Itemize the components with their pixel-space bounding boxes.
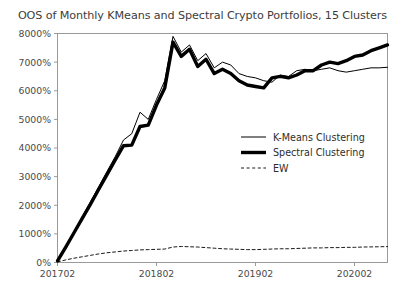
x-axis-ticks: 201702201802201902202002 — [40, 263, 373, 279]
y-tick-label: 3000% — [19, 171, 52, 182]
legend-label: Spectral Clustering — [273, 147, 365, 158]
x-tick-label: 202002 — [337, 268, 373, 279]
x-tick-label: 201702 — [40, 268, 76, 279]
chart-figure: OOS of Monthly KMeans and Spectral Crypt… — [0, 0, 405, 304]
legend-label: K-Means Clustering — [273, 132, 365, 143]
y-tick-label: 4000% — [19, 142, 52, 153]
legend-label: EW — [273, 163, 289, 174]
x-tick-label: 201902 — [238, 268, 274, 279]
y-tick-label: 7000% — [19, 57, 52, 68]
x-tick-label: 201802 — [139, 268, 175, 279]
y-tick-label: 1000% — [19, 228, 52, 239]
y-axis-ticks: 0%1000%2000%3000%4000%5000%6000%7000%800… — [19, 28, 58, 268]
y-tick-label: 2000% — [19, 200, 52, 211]
y-tick-label: 8000% — [19, 28, 52, 39]
line-chart-plot: 0%1000%2000%3000%4000%5000%6000%7000%800… — [0, 0, 405, 304]
y-tick-label: 6000% — [19, 85, 52, 96]
y-tick-label: 5000% — [19, 114, 52, 125]
y-tick-label: 0% — [36, 257, 51, 268]
